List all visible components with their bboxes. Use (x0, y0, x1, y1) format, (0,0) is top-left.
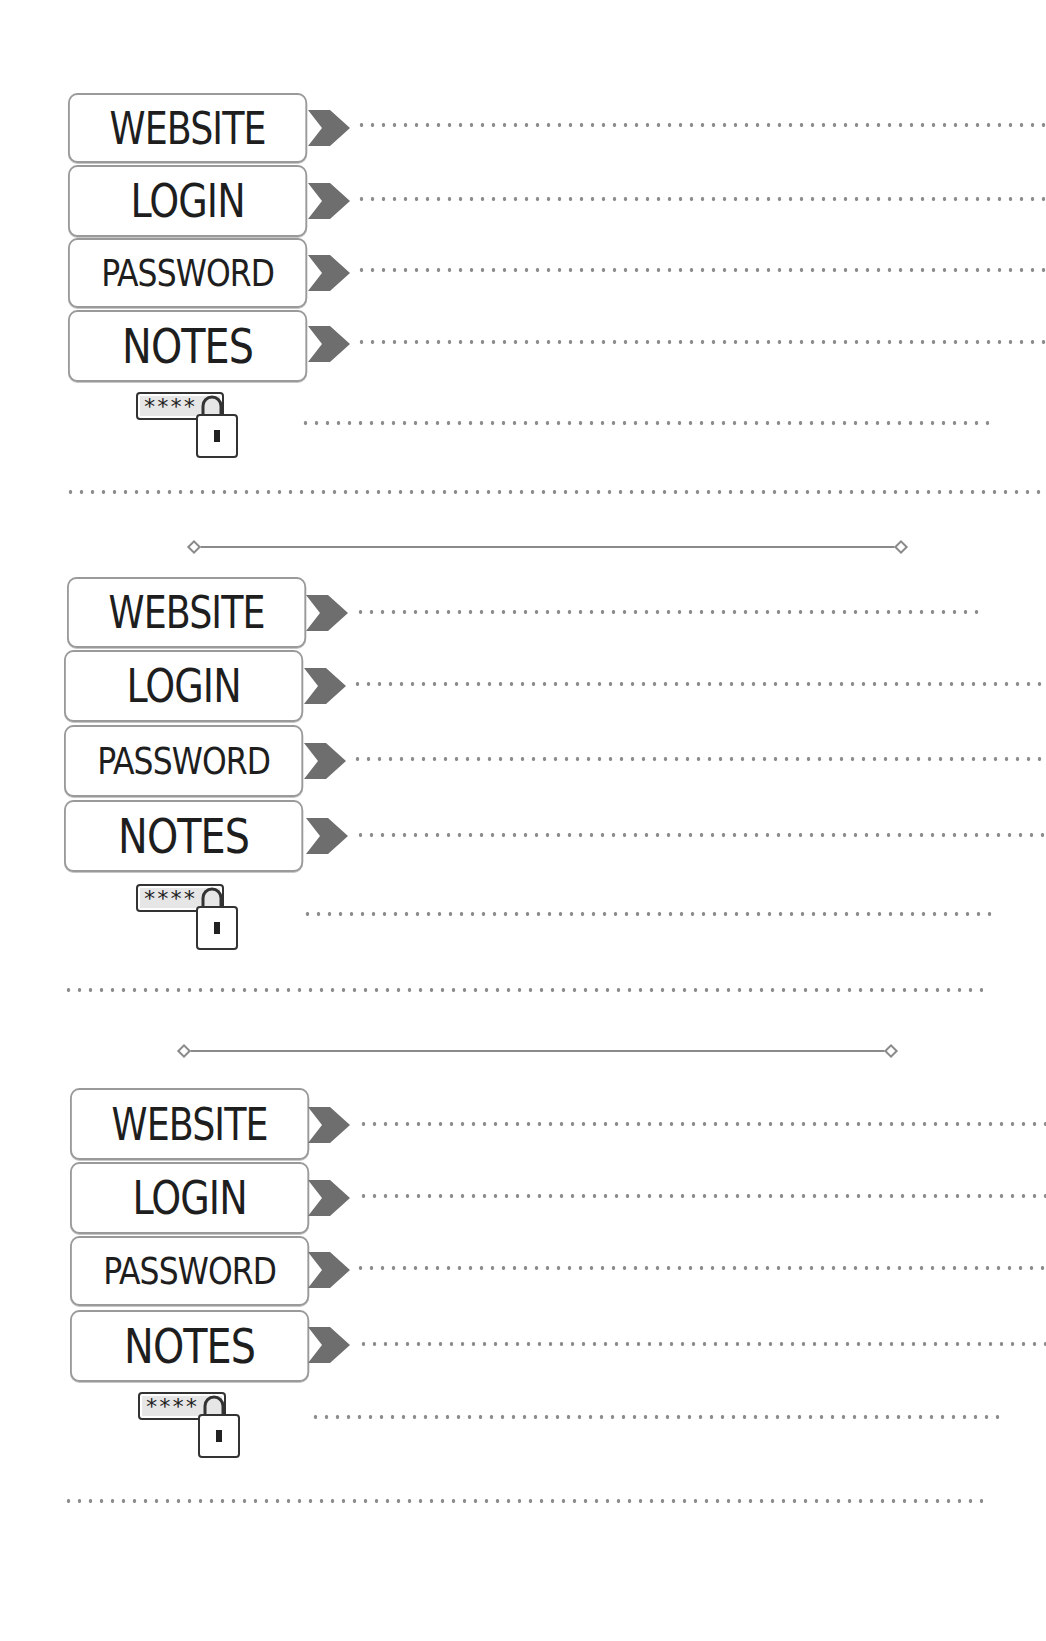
chevron-right-icon (308, 255, 350, 291)
website-label: WEBSITE (70, 1088, 309, 1160)
website-input-line[interactable] (355, 610, 985, 614)
website-label: WEBSITE (67, 577, 306, 648)
chevron-right-icon (306, 818, 348, 854)
password-label: PASSWORD (70, 1236, 309, 1306)
entry-separator-line[interactable] (63, 1499, 983, 1503)
password-lock-icon: **** (137, 1390, 247, 1460)
svg-text:****: **** (143, 394, 196, 419)
password-lock-icon: **** (135, 390, 245, 460)
chevron-right-icon (308, 326, 350, 362)
chevron-right-icon (308, 1107, 350, 1143)
login-label: LOGIN (64, 650, 303, 722)
entry-separator-line[interactable] (63, 988, 983, 992)
chevron-right-icon (308, 110, 350, 146)
notes-label: NOTES (64, 800, 303, 872)
chevron-right-icon (308, 1252, 350, 1288)
login-input-line[interactable] (358, 1194, 1046, 1198)
section-divider (185, 1050, 890, 1052)
entry-separator-line[interactable] (65, 490, 1046, 494)
password-input-line[interactable] (356, 268, 1046, 272)
chevron-right-icon (306, 595, 348, 631)
chevron-right-icon (308, 183, 350, 219)
extra-input-line[interactable] (300, 421, 990, 425)
extra-input-line[interactable] (302, 912, 992, 916)
website-label: WEBSITE (68, 93, 307, 163)
notes-label: NOTES (68, 310, 307, 382)
section-divider (195, 546, 900, 548)
chevron-right-icon (304, 668, 346, 704)
password-label: PASSWORD (68, 238, 307, 308)
notes-input-line[interactable] (358, 1342, 1046, 1346)
svg-text:****: **** (145, 1394, 198, 1419)
extra-input-line[interactable] (310, 1415, 1000, 1419)
password-input-line[interactable] (352, 757, 1046, 761)
chevron-right-icon (308, 1180, 350, 1216)
notes-input-line[interactable] (355, 833, 1046, 837)
notes-input-line[interactable] (356, 340, 1046, 344)
notes-label: NOTES (70, 1310, 309, 1382)
chevron-right-icon (308, 1327, 350, 1363)
website-input-line[interactable] (356, 123, 1046, 127)
login-input-line[interactable] (356, 197, 1046, 201)
password-lock-icon: **** (135, 882, 245, 952)
svg-text:****: **** (143, 886, 196, 911)
login-label: LOGIN (68, 165, 307, 237)
login-label: LOGIN (70, 1162, 309, 1234)
website-input-line[interactable] (358, 1122, 1046, 1126)
password-input-line[interactable] (355, 1266, 1046, 1270)
login-input-line[interactable] (352, 682, 1046, 686)
chevron-right-icon (304, 743, 346, 779)
password-label: PASSWORD (64, 725, 303, 797)
